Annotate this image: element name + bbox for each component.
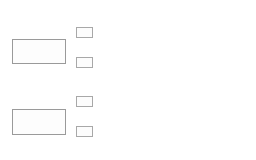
diagram-svg	[0, 0, 256, 160]
diagram-canvas	[0, 0, 256, 160]
ad-converter-4[interactable]	[76, 126, 93, 137]
ad-converter-2[interactable]	[76, 57, 93, 68]
ad-converter-1[interactable]	[76, 27, 93, 38]
synthesizer-1-box[interactable]	[12, 39, 66, 64]
ad-converter-3[interactable]	[76, 96, 93, 107]
synthesizer-2-box[interactable]	[12, 109, 66, 135]
